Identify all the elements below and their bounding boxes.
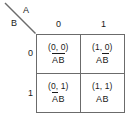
- kmap-cell: (0, 0) AB: [37, 35, 81, 74]
- literal-b: B: [102, 93, 109, 105]
- column-header-1: 1: [81, 19, 126, 29]
- cell-coordinates: (1, 0): [92, 42, 112, 53]
- row-variable-label: B: [11, 19, 17, 28]
- cell-coordinates: (0, 1): [48, 81, 68, 92]
- literal-b: B: [58, 93, 65, 105]
- cell-coordinates: (0, 0): [48, 42, 68, 53]
- cell-term: AB: [52, 93, 65, 105]
- karnaugh-map: A B 0 1 0 1 (0, 0) AB (1, 0) AB (0, 1) A…: [0, 0, 130, 119]
- literal-b: B: [58, 54, 65, 66]
- literal-a: A: [96, 54, 103, 66]
- literal-a: A: [52, 93, 59, 105]
- column-header-0: 0: [36, 19, 81, 29]
- literal-a: A: [52, 54, 59, 66]
- row-header-1: 1: [20, 88, 33, 98]
- column-variable-label: A: [23, 6, 29, 15]
- diagonal-divider-icon: [0, 0, 36, 34]
- kmap-cell: (1, 0) AB: [81, 35, 125, 74]
- cell-term: AB: [52, 54, 65, 66]
- kmap-corner-header: A B: [0, 0, 36, 34]
- cell-coordinates: (1, 1): [92, 81, 112, 92]
- cell-term: AB: [96, 93, 109, 105]
- kmap-cell: (1, 1) AB: [81, 74, 125, 113]
- kmap-cell: (0, 1) AB: [37, 74, 81, 113]
- kmap-grid: (0, 0) AB (1, 0) AB (0, 1) AB (1, 1) AB: [36, 34, 125, 113]
- cell-term: AB: [96, 54, 109, 66]
- row-header-0: 0: [20, 48, 33, 58]
- literal-b: B: [102, 54, 109, 66]
- literal-a: A: [96, 93, 103, 105]
